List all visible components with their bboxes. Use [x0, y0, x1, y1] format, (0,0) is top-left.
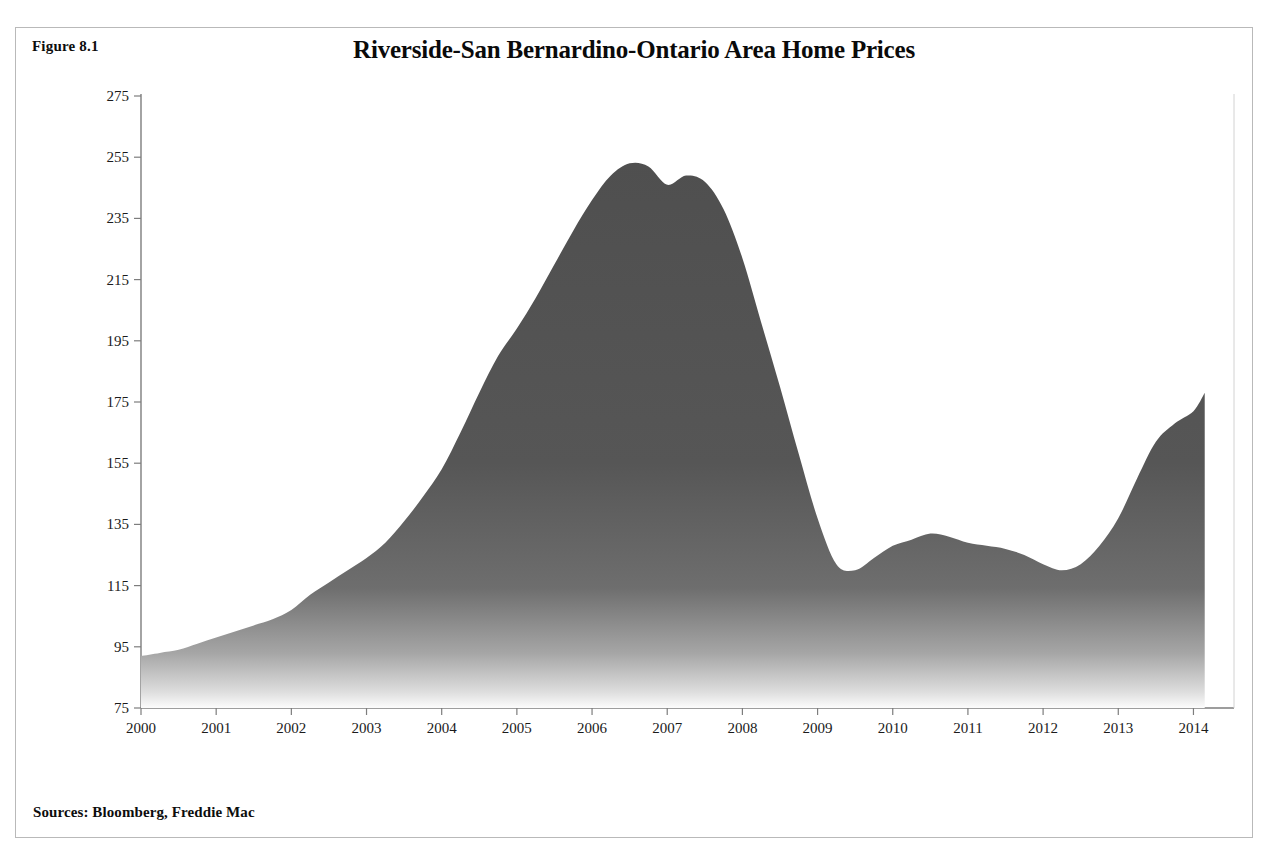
y-tick-label: 95	[83, 638, 129, 655]
y-tick-label: 175	[83, 394, 129, 411]
y-tick-label: 235	[83, 210, 129, 227]
y-tick-label: 75	[83, 700, 129, 717]
x-tick-label: 2005	[502, 720, 532, 737]
figure-frame: Figure 8.1 Riverside-San Bernardino-Onta…	[15, 27, 1253, 838]
area-series	[141, 163, 1205, 708]
y-tick-label: 215	[83, 271, 129, 288]
x-tick-label: 2003	[352, 720, 382, 737]
x-tick-label: 2001	[201, 720, 231, 737]
x-tick-label: 2013	[1103, 720, 1133, 737]
y-tick-label: 155	[83, 455, 129, 472]
sources-note: Sources: Bloomberg, Freddie Mac	[33, 804, 255, 821]
x-tick-label: 2007	[652, 720, 682, 737]
x-tick-label: 2004	[427, 720, 457, 737]
x-tick-label: 2000	[126, 720, 156, 737]
y-tick-label: 195	[83, 332, 129, 349]
y-tick-label: 115	[83, 577, 129, 594]
y-tick-label: 255	[83, 149, 129, 166]
x-tick-label: 2014	[1178, 720, 1208, 737]
chart-plot-area: 7595115135155175195215235255275200020012…	[16, 28, 1254, 839]
x-tick-label: 2012	[1028, 720, 1058, 737]
y-tick-label: 135	[83, 516, 129, 533]
x-tick-label: 2002	[276, 720, 306, 737]
x-tick-label: 2011	[953, 720, 982, 737]
x-tick-label: 2009	[803, 720, 833, 737]
area-chart-svg	[16, 28, 1254, 839]
x-tick-label: 2008	[727, 720, 757, 737]
x-tick-label: 2010	[878, 720, 908, 737]
y-tick-label: 275	[83, 88, 129, 105]
x-tick-label: 2006	[577, 720, 607, 737]
